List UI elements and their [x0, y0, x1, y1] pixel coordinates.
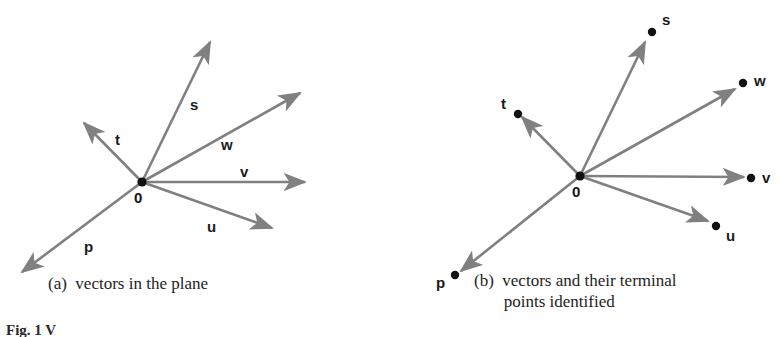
- origin-dot-panel-a: [137, 177, 146, 186]
- figure-caption: Fig. 1 V: [6, 322, 206, 337]
- panel-a-label-p: p: [84, 239, 93, 254]
- vector-arrow-a-t: [84, 123, 142, 182]
- panel-b-label-u: u: [726, 228, 735, 243]
- panel-a-caption: (a) vectors in the plane: [48, 273, 208, 294]
- panel-b-label-p: p: [436, 275, 445, 290]
- vector-arrow-b-p: [461, 176, 580, 271]
- panel-a-label-w: w: [221, 137, 233, 152]
- vector-arrow-b-v: [580, 176, 744, 177]
- vector-arrow-a-s: [142, 42, 210, 182]
- terminal-point-t: [514, 110, 522, 118]
- panel-b-label-s: s: [662, 12, 670, 27]
- terminal-point-u: [712, 222, 720, 230]
- terminal-point-v: [747, 174, 755, 182]
- panel-b-label-t: t: [501, 96, 506, 111]
- panel-b-label-v: v: [762, 170, 770, 185]
- panel-a-label-u: u: [207, 219, 216, 234]
- panel-b-origin-label: 0: [572, 184, 580, 199]
- vector-arrow-b-w: [580, 89, 735, 176]
- panel-b-arrow-group: [461, 42, 744, 271]
- origin-dot-panel-b: [575, 171, 584, 180]
- vector-arrow-a-p: [22, 182, 142, 272]
- terminal-point-s: [648, 28, 656, 36]
- vector-arrow-b-s: [580, 42, 645, 176]
- vector-arrow-b-t: [522, 117, 580, 176]
- terminal-point-w: [739, 79, 747, 87]
- panel-a-label-s: s: [190, 97, 198, 112]
- vector-arrow-b-u: [580, 176, 708, 221]
- terminal-point-p: [451, 271, 459, 279]
- panel-a-label-v: v: [240, 164, 248, 179]
- vector-figure: 0 s w v u t p 0 s w v u t p (a) vectors …: [0, 0, 781, 337]
- panel-a-arrow-group: [22, 42, 305, 272]
- origin-dots: [137, 171, 584, 186]
- panel-b-caption: (b) vectors and their terminal points id…: [474, 270, 677, 313]
- panel-a-origin-label: 0: [134, 190, 142, 205]
- panel-b-label-w: w: [754, 73, 766, 88]
- panel-a-label-t: t: [115, 132, 120, 147]
